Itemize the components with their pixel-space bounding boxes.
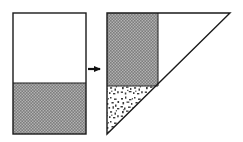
triangle-upper-left-shaded-region — [107, 13, 158, 86]
diagram-canvas — [0, 0, 243, 142]
left-rectangle-shape — [13, 13, 86, 134]
rectangle-lower-shaded-region — [13, 83, 86, 134]
triangle-lower-left-speckled-region — [107, 86, 160, 136]
figure-container: Rectangle to right-triangle area transfo… — [0, 0, 243, 142]
right-triangle-shape — [107, 13, 230, 136]
rectangle-upper-empty-region — [13, 13, 86, 83]
